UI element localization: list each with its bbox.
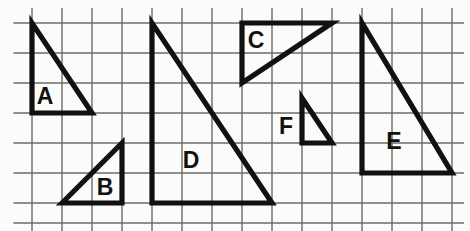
triangle-label-a: A	[37, 83, 54, 109]
triangle-label-b: B	[97, 174, 114, 200]
triangle-label-f: F	[279, 113, 293, 139]
triangle-label-e: E	[386, 128, 401, 154]
grid-layer	[13, 8, 464, 231]
grid-figure: ABCDEF	[0, 0, 470, 231]
triangle-f	[302, 98, 332, 143]
triangle-label-c: C	[248, 27, 265, 53]
triangle-label-d: D	[183, 147, 200, 173]
triangle-e	[362, 23, 452, 173]
triangles-worksheet: ABCDEF	[0, 0, 470, 231]
